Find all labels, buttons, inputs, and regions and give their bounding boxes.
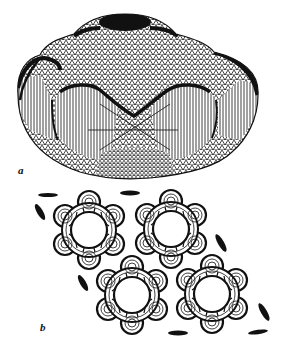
contour-ring-2 [136, 190, 206, 268]
panel-b-contour-map [0, 0, 287, 352]
contour-ring-4 [177, 255, 247, 333]
figure: a [0, 0, 287, 352]
contour-ring-1 [54, 191, 124, 269]
contour-ring-3 [97, 256, 167, 334]
panel-label-b: b [40, 322, 46, 333]
